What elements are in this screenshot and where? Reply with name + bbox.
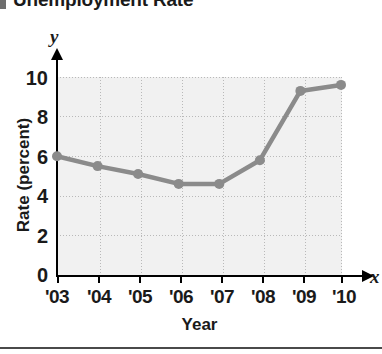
x-axis-variable-label: x <box>370 266 380 288</box>
y-axis-variable-label: y <box>50 26 58 48</box>
gridline-vertical-05 <box>141 77 142 275</box>
x-tick-label: '09 <box>282 287 326 306</box>
gridline-vertical-10 <box>341 77 342 275</box>
x-tick-label: '03 <box>35 287 79 306</box>
gridline-vertical-09 <box>305 77 306 275</box>
x-tick-mark <box>341 275 343 283</box>
y-axis-line <box>56 58 58 277</box>
x-axis-title: Year <box>57 315 342 335</box>
plot-area <box>57 77 342 275</box>
x-tick-mark <box>139 275 141 283</box>
x-tick-mark <box>57 275 59 283</box>
gridline-vertical-07 <box>223 77 224 275</box>
x-tick-mark <box>98 275 100 283</box>
x-tick-label: '08 <box>241 287 285 306</box>
x-axis-line <box>56 275 363 277</box>
x-tick-label: '05 <box>118 287 162 306</box>
gridline-vertical-08 <box>264 77 265 275</box>
footer-divider <box>0 347 382 349</box>
y-axis-arrow-icon <box>51 48 63 60</box>
x-tick-label: '04 <box>77 287 121 306</box>
y-axis-title: Rate (percent) <box>14 75 34 275</box>
gridline-vertical-06 <box>182 77 183 275</box>
x-tick-mark <box>262 275 264 283</box>
x-tick-label: '06 <box>159 287 203 306</box>
x-tick-mark <box>303 275 305 283</box>
x-tick-label: '07 <box>200 287 244 306</box>
x-tick-mark <box>180 275 182 283</box>
x-tick-mark <box>221 275 223 283</box>
gridline-vertical-04 <box>100 77 101 275</box>
x-tick-label: '10 <box>322 287 366 306</box>
